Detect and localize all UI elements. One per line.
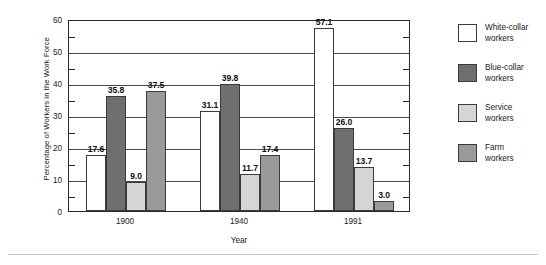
bar: 39.8 [220,84,240,211]
y-axis-tick-label: 60 [36,17,62,25]
x-axis-tick-label: 1991 [344,217,362,226]
bar-value-label: 11.7 [242,164,258,173]
bar-chart-figure: Percentage of Workers in the Work Force … [0,0,546,265]
y-axis-tick-label: 50 [36,49,62,57]
y-axis-tick-label: 10 [36,177,62,185]
y-axis-minor-tick [403,197,409,198]
bar-value-label: 17.6 [88,145,104,154]
y-axis-title-line2: in the Work Force [42,37,51,99]
y-axis-tick-label: 30 [36,113,62,121]
bar: 37.5 [146,91,166,211]
y-axis-tick-label: 40 [36,81,62,89]
legend-label-line2: workers [485,114,514,125]
legend-label-line1: Farm [485,143,514,154]
bar: 57.1 [314,28,334,211]
legend-label-line2: workers [485,154,514,165]
x-axis-title: Year [231,236,248,245]
y-axis-minor-tick [69,37,75,38]
legend-label-line1: Blue-collar [485,63,524,74]
legend-swatch [458,64,477,82]
bar-value-label: 17.4 [262,145,278,154]
legend-item[interactable]: Blue-collarworkers [458,64,544,104]
bar-value-label: 3.0 [378,191,390,200]
legend-label-line1: Service [485,103,514,114]
y-axis-minor-tick [403,69,409,70]
bar-value-label: 9.0 [130,172,142,181]
legend-label-line2: workers [485,34,528,45]
bar: 26.0 [334,128,354,211]
bar: 13.7 [354,167,374,211]
chart-legend: White-collarworkersBlue-collarworkersSer… [458,24,544,184]
legend-swatch [458,144,477,162]
legend-item[interactable]: Farmworkers [458,144,544,184]
bar-value-label: 57.1 [316,18,332,27]
y-axis-minor-tick [69,133,75,134]
y-axis-tick-label: 20 [36,145,62,153]
bar-value-label: 37.5 [148,81,164,90]
bar: 35.8 [106,96,126,211]
y-axis-minor-tick [69,101,75,102]
legend-swatch [458,24,477,42]
y-axis-tick-label: 0 [36,209,62,217]
y-axis-minor-tick [69,197,75,198]
bar: 11.7 [240,174,260,211]
legend-item[interactable]: Serviceworkers [458,104,544,144]
bar: 3.0 [374,201,394,211]
bar-value-label: 35.8 [108,86,124,95]
legend-label-line2: workers [485,74,524,85]
page-divider [8,254,538,255]
legend-label: White-collarworkers [485,23,528,44]
gridline [69,53,409,54]
y-axis-minor-tick [69,69,75,70]
legend-label-line1: White-collar [485,23,528,34]
legend-label: Serviceworkers [485,103,514,124]
bar-value-label: 39.8 [222,74,238,83]
y-axis-minor-tick [403,37,409,38]
legend-item[interactable]: White-collarworkers [458,24,544,64]
plot-area: 010203040506017.635.89.037.531.139.811.7… [68,20,410,212]
legend-swatch [458,104,477,122]
y-axis-minor-tick [403,133,409,134]
bar-value-label: 26.0 [336,118,352,127]
y-axis-minor-tick [403,165,409,166]
bar: 17.6 [86,155,106,211]
y-axis-minor-tick [403,101,409,102]
bar-value-label: 13.7 [356,157,372,166]
y-axis-minor-tick [69,165,75,166]
legend-label: Farmworkers [485,143,514,164]
legend-label: Blue-collarworkers [485,63,524,84]
bar: 17.4 [260,155,280,211]
bar: 9.0 [126,182,146,211]
bar-value-label: 31.1 [202,101,218,110]
x-axis-tick-label: 1900 [116,217,134,226]
x-axis-tick-label: 1940 [230,217,248,226]
bar: 31.1 [200,111,220,211]
